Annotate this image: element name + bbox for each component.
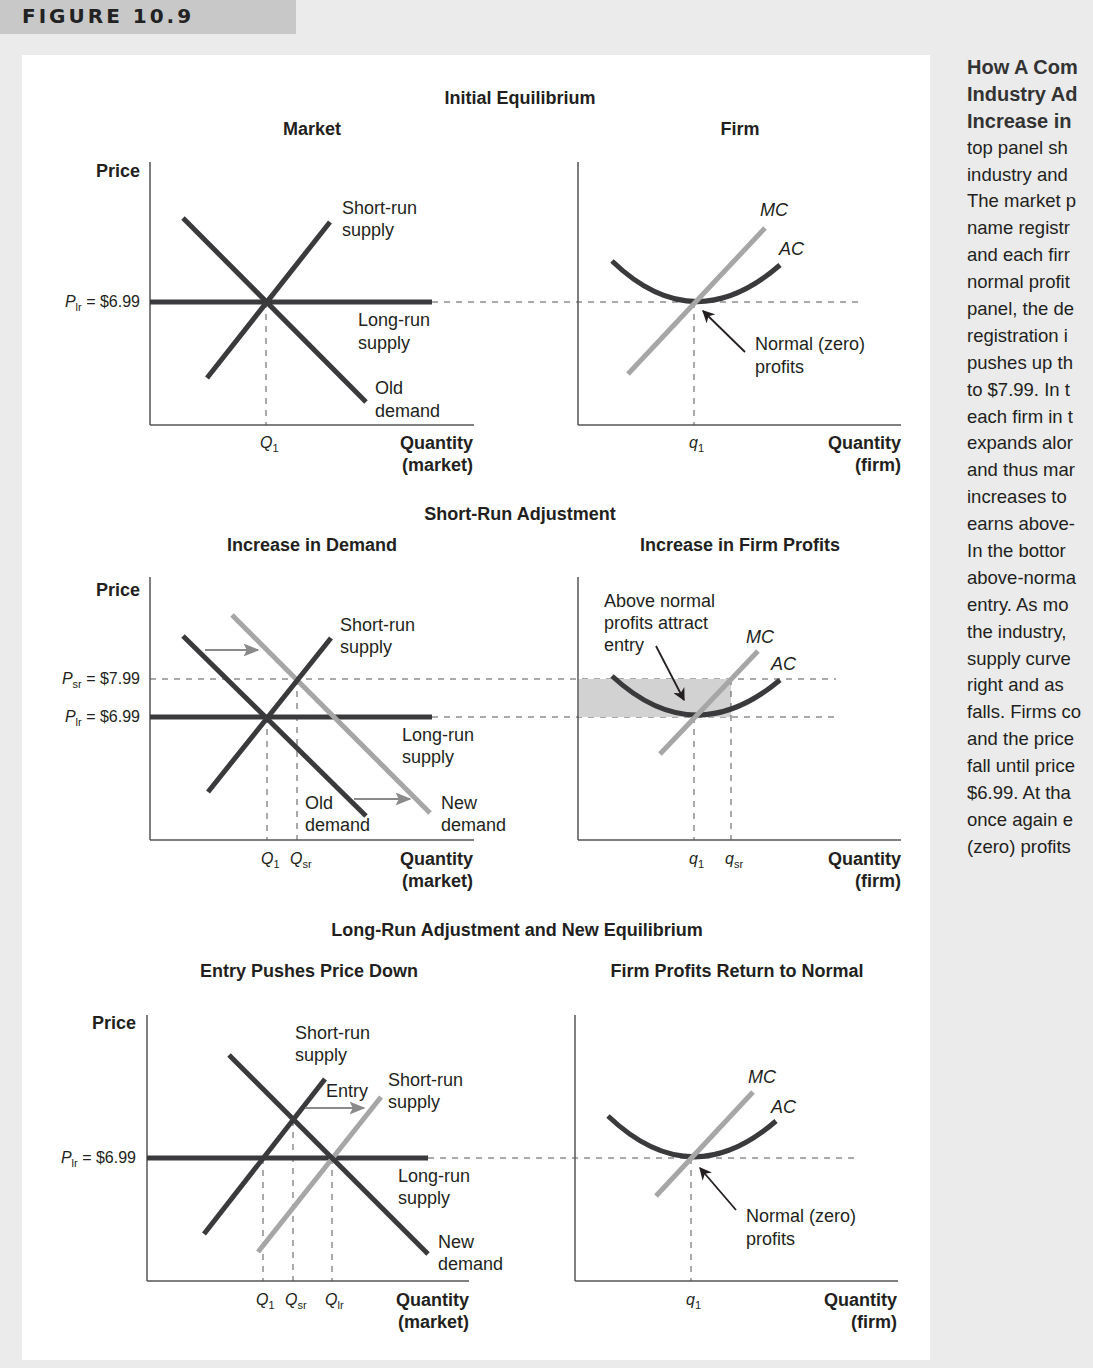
- svg-text:Qsr: Qsr: [290, 850, 312, 870]
- caption-line: panel, the de: [967, 296, 1093, 323]
- svg-text:demand: demand: [305, 815, 370, 835]
- svg-text:Normal (zero): Normal (zero): [755, 334, 865, 354]
- svg-text:(firm): (firm): [855, 455, 901, 475]
- p-lr-tick-label: Plr = $6.99: [65, 708, 140, 728]
- row1-firm-chart: MC AC Normal (zero) profits q1 Quantity …: [578, 162, 901, 475]
- svg-text:Long-run: Long-run: [358, 310, 430, 330]
- caption-line: the industry,: [967, 619, 1093, 646]
- caption-line: to $7.99. In t: [967, 377, 1093, 404]
- svg-text:AC: AC: [770, 1097, 797, 1117]
- svg-text:Q1: Q1: [260, 434, 279, 454]
- caption-line: falls. Firms co: [967, 699, 1093, 726]
- svg-text:supply: supply: [295, 1045, 347, 1065]
- svg-text:q1: q1: [689, 850, 704, 870]
- svg-text:supply: supply: [342, 220, 394, 240]
- svg-text:Qlr: Qlr: [325, 1291, 344, 1311]
- row1-market-chart: Price Plr = $6.99 Short-run supply Long-…: [65, 161, 863, 475]
- caption-line: (zero) profits: [967, 834, 1093, 861]
- caption-line: supply curve: [967, 646, 1093, 673]
- svg-text:Short-run: Short-run: [340, 615, 415, 635]
- svg-text:supply: supply: [388, 1092, 440, 1112]
- svg-text:Above normal: Above normal: [604, 591, 715, 611]
- figure-caption: How A ComIndustry AdIncrease intop panel…: [967, 54, 1093, 861]
- p-sr-tick-label: Psr = $7.99: [62, 670, 140, 690]
- svg-text:Entry: Entry: [326, 1081, 368, 1101]
- row3-firm-chart: MC AC Normal (zero) profits q1 Quantity …: [575, 1015, 898, 1332]
- svg-text:q1: q1: [689, 434, 704, 454]
- svg-text:(firm): (firm): [855, 871, 901, 891]
- svg-text:qsr: qsr: [725, 850, 743, 870]
- svg-text:demand: demand: [441, 815, 506, 835]
- svg-text:supply: supply: [402, 747, 454, 767]
- svg-text:Quantity: Quantity: [400, 433, 473, 453]
- row2-firm-chart: MC AC Above normal profits attract entry…: [578, 577, 901, 891]
- svg-text:q1: q1: [686, 1291, 701, 1311]
- price-axis-label: Price: [96, 161, 140, 181]
- svg-text:profits attract: profits attract: [604, 613, 708, 633]
- svg-text:entry: entry: [604, 635, 644, 655]
- caption-line: each firm in t: [967, 404, 1093, 431]
- caption-line: once again e: [967, 807, 1093, 834]
- p-lr-tick-label: Plr = $6.99: [61, 1149, 136, 1169]
- row2-market-chart: Price Psr = $7.99 Plr = $6.99 Short-run …: [62, 577, 836, 891]
- svg-text:Quantity: Quantity: [400, 849, 473, 869]
- svg-text:Short-run: Short-run: [342, 198, 417, 218]
- economics-diagram: Initial Equilibrium Market Firm Price Pl…: [0, 0, 1093, 1368]
- caption-line: How A Com: [967, 54, 1093, 81]
- caption-line: and each firr: [967, 242, 1093, 269]
- row1-firm-title: Firm: [720, 119, 759, 139]
- svg-text:Q1: Q1: [261, 850, 280, 870]
- svg-text:(market): (market): [402, 455, 473, 475]
- caption-line: Increase in: [967, 108, 1093, 135]
- svg-text:Old: Old: [375, 378, 403, 398]
- svg-text:profits: profits: [746, 1229, 795, 1249]
- svg-text:Plr = $6.99: Plr = $6.99: [65, 293, 140, 313]
- svg-text:Quantity: Quantity: [824, 1290, 897, 1310]
- caption-line: right and as: [967, 672, 1093, 699]
- svg-text:AC: AC: [770, 654, 797, 674]
- svg-text:Short-run: Short-run: [388, 1070, 463, 1090]
- row3-firm-title: Firm Profits Return to Normal: [610, 961, 863, 981]
- svg-text:Price: Price: [92, 1013, 136, 1033]
- svg-text:MC: MC: [748, 1067, 777, 1087]
- svg-text:Old: Old: [305, 793, 333, 813]
- caption-line: normal profit: [967, 269, 1093, 296]
- row1-market-title: Market: [283, 119, 341, 139]
- ac-curve: [608, 1116, 776, 1157]
- caption-line: and thus mar: [967, 457, 1093, 484]
- ac-curve: [612, 261, 780, 302]
- row2-firm-title: Increase in Firm Profits: [640, 535, 840, 555]
- svg-text:(market): (market): [402, 871, 473, 891]
- svg-text:(market): (market): [398, 1312, 469, 1332]
- row3-market-chart: Price Plr = $6.99 Short-run supply Entry…: [61, 1013, 860, 1332]
- svg-text:Long-run: Long-run: [398, 1166, 470, 1186]
- svg-text:Long-run: Long-run: [402, 725, 474, 745]
- row2-market-title: Increase in Demand: [227, 535, 397, 555]
- svg-text:Qsr: Qsr: [285, 1291, 307, 1311]
- row2-title: Short-Run Adjustment: [424, 504, 615, 524]
- caption-line: fall until price: [967, 753, 1093, 780]
- svg-text:supply: supply: [340, 637, 392, 657]
- svg-text:Q1: Q1: [256, 1291, 275, 1311]
- svg-text:profits: profits: [755, 357, 804, 377]
- caption-line: industry and: [967, 162, 1093, 189]
- caption-line: entry. As mo: [967, 592, 1093, 619]
- svg-text:Normal (zero): Normal (zero): [746, 1206, 856, 1226]
- caption-line: name registr: [967, 215, 1093, 242]
- above-normal-profit-area: [579, 679, 731, 717]
- svg-text:Quantity: Quantity: [828, 433, 901, 453]
- caption-line: increases to: [967, 484, 1093, 511]
- caption-line: In the bottor: [967, 538, 1093, 565]
- svg-text:(firm): (firm): [851, 1312, 897, 1332]
- row3-title: Long-Run Adjustment and New Equilibrium: [331, 920, 702, 940]
- svg-text:Price: Price: [96, 580, 140, 600]
- caption-line: and the price: [967, 726, 1093, 753]
- caption-line: $6.99. At tha: [967, 780, 1093, 807]
- svg-text:MC: MC: [746, 627, 775, 647]
- caption-line: Industry Ad: [967, 81, 1093, 108]
- svg-text:Quantity: Quantity: [396, 1290, 469, 1310]
- svg-text:demand: demand: [375, 401, 440, 421]
- svg-text:Quantity: Quantity: [828, 849, 901, 869]
- row1-title: Initial Equilibrium: [444, 88, 595, 108]
- svg-text:MC: MC: [760, 200, 789, 220]
